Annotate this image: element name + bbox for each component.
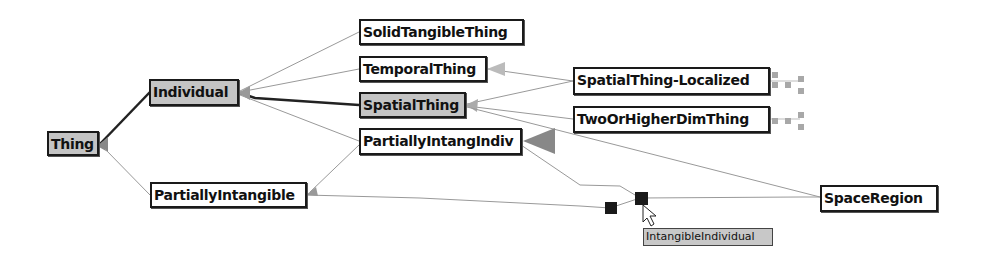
collapsed-children-icon[interactable]	[798, 124, 804, 130]
edge-individual-thing	[99, 92, 150, 145]
node-temporalthing[interactable]: TemporalThing	[359, 56, 487, 82]
edge-temporal-individual	[240, 69, 359, 92]
collapsed-children-icon[interactable]	[785, 118, 791, 124]
collapsed-children-icon[interactable]	[772, 72, 778, 78]
hidden-node-marker[interactable]	[635, 192, 648, 205]
node-solidtangiblething[interactable]: SolidTangibleThing	[359, 19, 524, 45]
node-individual[interactable]: Individual	[149, 79, 239, 106]
edge-solidtangible-individual	[240, 32, 359, 91]
node-spatialthing[interactable]: SpatialThing	[359, 92, 466, 118]
collapsed-children-icon[interactable]	[785, 82, 791, 88]
arrowhead-icon	[466, 99, 478, 112]
node-spaceregion[interactable]: SpaceRegion	[820, 185, 938, 212]
node-spatialthing-localized[interactable]: SpatialThing-Localized	[573, 67, 770, 95]
edge-pii-squares	[521, 145, 640, 198]
arrowhead-icon	[238, 86, 250, 100]
edge-twoorhigher-spatial	[467, 106, 573, 119]
mouse-cursor-icon	[643, 205, 656, 226]
edge-spatial-individual	[240, 93, 359, 105]
collapsed-children-icon[interactable]	[772, 82, 778, 88]
collapsed-children-icon[interactable]	[798, 88, 804, 94]
node-thing[interactable]: Thing	[47, 131, 99, 156]
node-partiallyintangindiv[interactable]: PartiallyIntangIndiv	[359, 128, 522, 155]
node-partiallyintangible[interactable]: PartiallyIntangible	[150, 182, 307, 208]
ontology-graph-canvas[interactable]: Thing Individual PartiallyIntangible Sol…	[0, 0, 987, 263]
node-twoorhigherdimthing[interactable]: TwoOrHigherDimThing	[573, 106, 770, 133]
arrowhead-icon	[487, 62, 505, 76]
node-tooltip: IntangibleIndividual	[643, 228, 773, 246]
hidden-node-marker[interactable]	[605, 202, 617, 214]
collapsed-children-icon[interactable]	[798, 76, 804, 82]
edge-pii-partiallyintangible	[310, 145, 359, 192]
edge-partiallyintangible-squares	[306, 195, 820, 208]
edge-stl-spatial	[467, 81, 573, 104]
collapsed-children-icon[interactable]	[798, 112, 804, 118]
collapsed-children-icon[interactable]	[772, 118, 778, 124]
edge-partiallyintangible-thing	[105, 149, 150, 195]
